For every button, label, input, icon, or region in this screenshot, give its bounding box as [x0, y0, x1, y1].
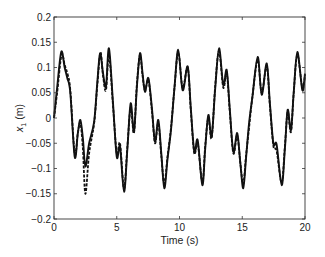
y-axis-label-unit: (m): [13, 104, 25, 123]
y-tick-label: −0.05: [26, 138, 52, 149]
x-tick-label: 15: [237, 222, 249, 233]
y-tick-label: 0.1: [37, 62, 51, 73]
x-tick-label: 0: [51, 222, 57, 233]
line-chart: 05101520 −0.2−0.15−0.1−0.0500.050.10.150…: [0, 0, 325, 257]
x-tick-label: 5: [114, 222, 120, 233]
y-tick-label: −0.2: [31, 214, 51, 225]
y-tick-label: 0.05: [32, 87, 52, 98]
y-tick-label: −0.1: [31, 163, 51, 174]
x-tick-label: 20: [299, 222, 311, 233]
y-tick-label: 0.2: [37, 12, 51, 23]
y-tick-label: 0.15: [32, 37, 52, 48]
x-tick-label: 10: [174, 222, 186, 233]
y-axis-label: x1 (m): [13, 104, 27, 133]
y-tick-label: −0.15: [26, 188, 52, 199]
x-axis-label: Time (s): [160, 234, 198, 246]
y-tick-label: 0: [45, 113, 51, 124]
